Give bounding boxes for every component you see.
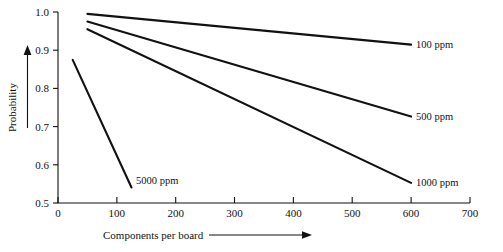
- series-label-1000ppm: 1000 ppm: [416, 177, 458, 188]
- series-label-5000ppm: 5000 ppm: [136, 175, 178, 186]
- x-tick-label: 300: [226, 207, 243, 219]
- series-line-5000ppm: [73, 60, 132, 188]
- y-tick-label: 1.0: [35, 6, 49, 18]
- y-axis-title: Probability: [6, 83, 18, 132]
- series-label-100ppm: 100 ppm: [416, 39, 453, 50]
- y-axis-arrow-icon: [24, 45, 32, 128]
- x-tick-label: 600: [403, 207, 420, 219]
- y-tick-label: 0.5: [35, 197, 49, 209]
- y-axis-tick-labels: 0.5 0.6 0.7 0.8 0.9 1.0: [35, 6, 49, 209]
- x-tick-label: 100: [109, 207, 126, 219]
- y-tick-label: 0.8: [35, 82, 49, 94]
- series-line-500ppm: [87, 22, 411, 117]
- x-tick-label: 400: [285, 207, 302, 219]
- x-axis-tick-labels: 0 100 200 300 400 500 600 700: [55, 207, 479, 219]
- y-axis-ticks: [53, 12, 58, 203]
- x-axis-arrow-icon: [209, 231, 312, 238]
- chart-figure: 0.5 0.6 0.7 0.8 0.9 1.0 0 100 200 300 40…: [0, 0, 503, 252]
- y-tick-label: 0.9: [35, 44, 49, 56]
- series-line-100ppm: [87, 14, 411, 45]
- x-tick-label: 500: [344, 207, 361, 219]
- series-label-500ppm: 500 ppm: [416, 111, 453, 122]
- y-tick-label: 0.6: [35, 159, 49, 171]
- axis-lines: [58, 12, 470, 203]
- x-axis-title: Components per board: [103, 229, 204, 241]
- x-tick-label: 200: [167, 207, 184, 219]
- probability-line-chart: 0.5 0.6 0.7 0.8 0.9 1.0 0 100 200 300 40…: [0, 0, 503, 252]
- series-line-1000ppm: [87, 29, 411, 183]
- x-tick-label: 700: [462, 207, 479, 219]
- x-tick-label: 0: [55, 207, 61, 219]
- y-tick-label: 0.7: [35, 121, 49, 133]
- x-axis-ticks: [58, 197, 470, 203]
